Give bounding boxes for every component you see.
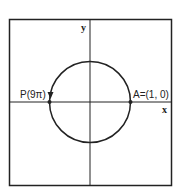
unit-circle-diagram: P(9π) A=(1, 0) x y [0, 0, 179, 193]
y-axis-label: y [81, 22, 86, 33]
point-p-label: P(9π) [20, 89, 46, 100]
diagram-canvas: P(9π) A=(1, 0) x y [0, 0, 179, 193]
point-p-marker [48, 100, 52, 104]
point-a-label: A=(1, 0) [133, 89, 169, 100]
point-a-marker [129, 100, 133, 104]
direction-arrow-icon [48, 92, 54, 99]
x-axis-label: x [162, 104, 167, 115]
